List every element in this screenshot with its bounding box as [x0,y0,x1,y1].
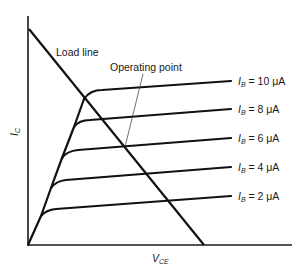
transistor-characteristics-diagram: Load line Operating point IB = 10 μA IB … [0,0,302,276]
curve-ib-6 [62,138,231,158]
saturation-line [28,99,84,245]
curve-label-ib-2: IB = 2 μA [238,190,279,203]
curve-ib-10 [84,81,231,99]
curve-label-ib-8: IB = 8 μA [238,103,279,116]
operating-point-leader [125,74,143,147]
load-line-label: Load line [56,46,99,58]
x-axis-label: VCE [152,252,169,265]
operating-point-label: Operating point [110,61,182,73]
curve-ib-4 [51,167,231,188]
y-axis-label: IC [8,127,21,136]
curve-label-ib-6: IB = 6 μA [238,132,279,145]
curve-label-ib-10: IB = 10 μA [238,75,285,88]
curve-label-ib-4: IB = 4 μA [238,161,279,174]
curve-ib-2 [41,196,231,216]
curve-ib-8 [74,109,231,127]
